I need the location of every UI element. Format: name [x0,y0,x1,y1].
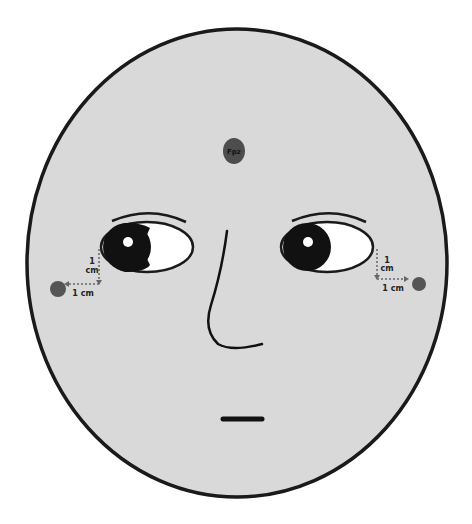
electrode-left-outer-canthus [50,281,66,297]
right-vertical-unit: cm [380,264,393,273]
face-diagram: Fpz 1 cm 1 cm 1 cm 1 cm [0,0,472,524]
electrode-fpz-label: Fpz [227,148,241,156]
electrode-right-outer-canthus [412,277,426,291]
left-horizontal-label: 1 cm [72,289,93,298]
left-eye [101,222,193,272]
left-vertical-unit: cm [85,266,98,275]
electrode-fpz: Fpz [223,138,245,164]
right-eye [281,222,373,272]
left-vertical-value: 1 [89,257,95,266]
right-horizontal-label: 1 cm [382,284,403,293]
